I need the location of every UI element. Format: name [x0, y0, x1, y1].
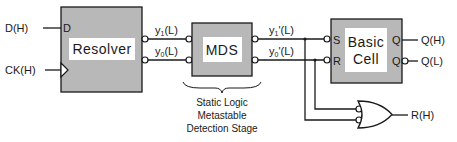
resolver-label: Resolver	[72, 41, 131, 57]
mds-label: MDS	[206, 42, 239, 58]
y0-label: y0(L)	[155, 45, 178, 58]
y1-prime-label: y1'(L)	[269, 24, 294, 37]
inversion-bubble-icon	[142, 36, 148, 42]
pin-r-label: R	[333, 55, 341, 67]
qh-output-label: Q(H)	[421, 34, 445, 46]
inversion-bubble-icon	[186, 36, 192, 42]
or-gate-icon	[358, 101, 392, 128]
basic-cell-label-line1: Basic	[348, 34, 385, 50]
d-input-label: D(H)	[5, 22, 28, 34]
pin-qbar-label: Q	[392, 55, 401, 67]
inversion-bubble-icon	[402, 58, 408, 64]
inversion-bubble-icon	[142, 57, 148, 63]
rh-output-label: R(H)	[411, 109, 434, 121]
or-gate	[356, 101, 392, 128]
ck-input-label: CK(H)	[5, 64, 36, 76]
y1-label: y1(L)	[155, 24, 178, 37]
inversion-bubble-icon	[324, 36, 330, 42]
inversion-bubble-icon	[252, 36, 258, 42]
basic-cell-block: S R Basic Cell Q Q	[324, 19, 408, 83]
brace-icon	[183, 82, 261, 93]
inversion-bubble-icon	[252, 57, 258, 63]
mds-caption-line3: Detection Stage	[186, 123, 258, 134]
basic-cell-label-line2: Cell	[353, 51, 379, 67]
ql-output-label: Q(L)	[421, 55, 443, 67]
mds-block: MDS	[186, 23, 258, 76]
mds-caption-line2: Metastable	[198, 110, 247, 121]
pin-q-label: Q	[392, 34, 401, 46]
resolver-d-pin: D	[63, 22, 71, 34]
mds-caption-line1: Static Logic	[196, 97, 248, 108]
y0-prime-label: y0'(L)	[269, 45, 294, 58]
inversion-bubble-icon	[186, 57, 192, 63]
logic-diagram: D(H) CK(H) Resolver D y1(L) y0(L) MDS St…	[0, 0, 457, 142]
pin-s-label: S	[333, 34, 340, 46]
inversion-bubble-icon	[324, 57, 330, 63]
resolver-block: Resolver D	[61, 7, 148, 92]
